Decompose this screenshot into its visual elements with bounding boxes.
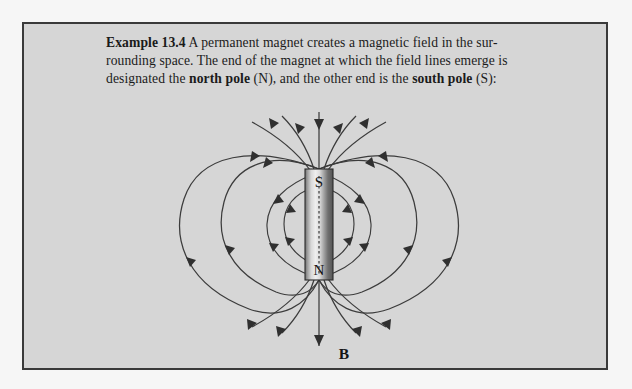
arrowhead-top-right-b bbox=[359, 118, 369, 129]
arrowhead-innermost-left-bottom bbox=[285, 237, 295, 246]
field-line-innermost-right bbox=[324, 187, 354, 264]
field-line-bottom-right-a bbox=[324, 280, 356, 333]
page-canvas: Example 13.4 A permanent magnet creates … bbox=[0, 0, 632, 389]
arrowhead-innermost-right-top bbox=[342, 204, 352, 213]
field-line-bottom-left-b bbox=[252, 279, 310, 327]
arrowhead-inner-right-bottom bbox=[359, 243, 369, 252]
field-line-inner-left bbox=[267, 174, 315, 276]
south-pole-term: south pole bbox=[412, 71, 472, 86]
arrowhead-axis-top bbox=[314, 119, 324, 130]
arrowhead-innermost-left-top bbox=[286, 204, 296, 213]
figure-frame: Example 13.4 A permanent magnet creates … bbox=[22, 22, 608, 370]
arrowhead-inner-left-bottom bbox=[269, 243, 279, 252]
arrowhead-top-left-a bbox=[295, 123, 305, 134]
arrowhead-bottom-left-b bbox=[247, 319, 257, 330]
arrowhead-inner-right-top bbox=[354, 194, 365, 204]
field-line-outer-left bbox=[180, 156, 319, 313]
arrowhead-mid-right-bottom bbox=[403, 245, 413, 255]
figure-caption: Example 13.4 A permanent magnet creates … bbox=[106, 34, 534, 88]
arrowhead-mid-left-top bbox=[263, 157, 273, 168]
field-line-top-right-a bbox=[324, 116, 356, 169]
arrowhead-mid-left-bottom bbox=[225, 245, 235, 255]
magnet-body bbox=[305, 169, 333, 280]
arrowhead-bottom-left-a bbox=[276, 326, 286, 337]
field-line-top-left-a bbox=[282, 116, 314, 169]
arrowhead-top-left-b bbox=[269, 118, 279, 129]
arrowhead-innermost-right-bottom bbox=[343, 237, 353, 246]
arrowhead-bottom-right-b bbox=[381, 319, 391, 330]
field-line-bottom-right-b bbox=[328, 279, 386, 327]
field-line-outer-right bbox=[319, 156, 458, 313]
arrowhead-outer-left-top bbox=[250, 151, 260, 162]
arrowhead-top-right-a bbox=[333, 123, 343, 134]
magnet-north-pole-label: N bbox=[314, 262, 325, 278]
field-arrowheads-group bbox=[186, 118, 452, 346]
arrowhead-mid-right-top bbox=[365, 157, 375, 168]
caption-text-part-3: (S): bbox=[472, 71, 496, 86]
caption-text-part-2: (N), and the other end is the bbox=[250, 71, 412, 86]
field-line-top-left-b bbox=[252, 122, 310, 170]
arrowhead-outer-right-top bbox=[378, 151, 388, 162]
field-lines-group bbox=[180, 112, 459, 346]
north-pole-term: north pole bbox=[189, 71, 250, 86]
field-line-inner-right bbox=[323, 174, 371, 276]
example-number-label: Example 13.4 bbox=[106, 35, 186, 50]
field-line-mid-left bbox=[221, 161, 319, 296]
field-line-bottom-left-a bbox=[282, 280, 314, 333]
field-line-mid-right bbox=[319, 161, 417, 296]
arrowhead-inner-left-top bbox=[273, 194, 284, 204]
arrowhead-bottom-right-a bbox=[352, 326, 362, 337]
magnet-south-pole-label: S bbox=[315, 174, 323, 190]
arrowhead-outer-right-bottom bbox=[442, 257, 452, 267]
arrowhead-outer-left-bottom bbox=[186, 257, 196, 267]
magnetic-field-b-label: B bbox=[339, 345, 349, 362]
bar-magnet: S N bbox=[305, 169, 333, 280]
arrowhead-axis-bottom bbox=[314, 335, 324, 346]
field-line-top-right-b bbox=[328, 122, 386, 170]
field-line-innermost-left bbox=[284, 187, 314, 264]
